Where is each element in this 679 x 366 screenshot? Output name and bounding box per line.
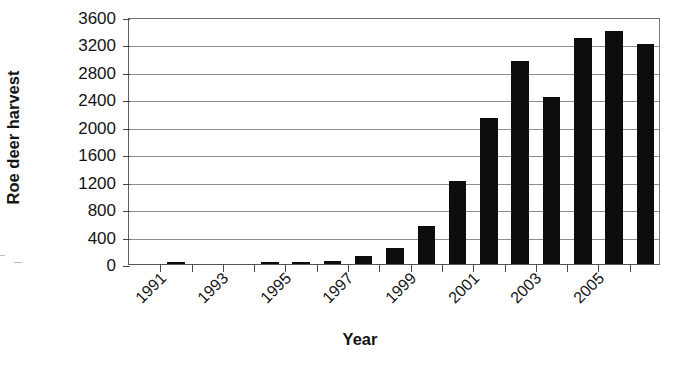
y-axis-tick-mark xyxy=(123,266,130,267)
y-axis-tick-label: 1600 xyxy=(78,147,116,164)
bar xyxy=(511,61,529,264)
bar xyxy=(605,31,623,264)
x-axis-title: Year xyxy=(300,330,420,349)
y-axis-tick-label: 3200 xyxy=(78,37,116,54)
y-axis-tick-label: 800 xyxy=(88,202,116,219)
y-axis-tick-label: 400 xyxy=(88,229,116,246)
y-axis-tick-label: 3600 xyxy=(78,10,116,27)
y-axis-tick-label: 2400 xyxy=(78,92,116,109)
bar xyxy=(386,248,404,264)
x-axis-tick-label: 1991 xyxy=(132,270,168,306)
x-axis-tick-labels: 19911993199519971999200120032005 xyxy=(128,270,660,330)
x-axis-tick-label: 1999 xyxy=(383,270,419,306)
y-axis-tick-label: 2000 xyxy=(78,119,116,136)
x-axis-tick-label: 1993 xyxy=(195,270,231,306)
y-axis-tick-label: 2800 xyxy=(78,64,116,81)
bar xyxy=(637,44,655,264)
plot-area xyxy=(128,18,660,265)
x-axis-tick-label: 2001 xyxy=(445,270,481,306)
bar xyxy=(292,262,310,265)
bar xyxy=(418,226,436,264)
y-axis-tick-labels: 04008001200160020002400280032003600 xyxy=(30,0,122,275)
x-axis-tick-label: 2003 xyxy=(508,270,544,306)
y-axis-title: Roe deer harvest xyxy=(0,0,28,275)
x-axis-tick-label: 1997 xyxy=(320,270,356,306)
roe-deer-harvest-bar-chart: Roe deer harvest 04008001200160020002400… xyxy=(0,0,679,366)
bar xyxy=(355,256,373,264)
bar xyxy=(167,262,185,265)
y-axis-tick-label: 0 xyxy=(107,257,116,274)
bar xyxy=(480,118,498,264)
bar xyxy=(324,261,342,264)
bar xyxy=(449,181,467,264)
bar xyxy=(543,97,561,264)
x-axis-tick-label: 2005 xyxy=(571,270,607,306)
scan-artifact xyxy=(0,255,5,256)
bar-series xyxy=(129,19,659,264)
y-axis-title-text: Roe deer harvest xyxy=(5,71,24,205)
scan-artifact xyxy=(14,262,22,263)
bar xyxy=(574,38,592,264)
x-axis-tick-label: 1995 xyxy=(258,270,294,306)
bar xyxy=(261,262,279,265)
y-axis-tick-label: 1200 xyxy=(78,174,116,191)
